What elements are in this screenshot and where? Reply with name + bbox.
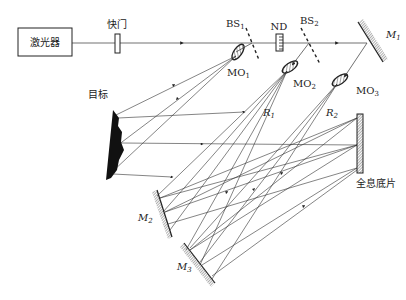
- m3-reflected-rays: [190, 118, 357, 276]
- svg-text:BS1: BS1: [226, 18, 245, 31]
- hologram-label: 全息底片: [356, 177, 396, 189]
- target-label: 目标: [88, 89, 108, 100]
- svg-text:MO2: MO2: [293, 78, 316, 91]
- mirror-m2: M2: [137, 190, 172, 239]
- svg-text:BS2: BS2: [300, 15, 319, 28]
- svg-text:R1: R1: [262, 107, 275, 120]
- mirror-m3: M3: [176, 243, 215, 287]
- svg-text:M3: M3: [176, 261, 192, 274]
- svg-text:M1: M1: [385, 29, 401, 42]
- nd-filter: ND: [271, 21, 288, 51]
- svg-text:M2: M2: [137, 212, 153, 225]
- object-illumination-rays: [112, 56, 236, 172]
- beam-splitter-2: BS2: [300, 15, 320, 64]
- mirror-m1: M1: [358, 19, 401, 62]
- beam-splitter-1: BS1: [226, 18, 259, 60]
- hologram-plate: 全息底片: [356, 114, 396, 189]
- holography-diagram: 激光器 快门 BS1 ND BS2 M1 MO1: [0, 0, 406, 300]
- objective-mo3: MO3: [330, 72, 379, 98]
- target-object: 目标: [88, 89, 124, 180]
- laser-label: 激光器: [30, 36, 60, 48]
- laser: 激光器: [18, 28, 72, 56]
- objective-mo2: MO2: [280, 59, 316, 91]
- shutter: 快门: [107, 18, 127, 53]
- reference-beam-r1: R1: [157, 71, 287, 265]
- nd-label: ND: [271, 21, 288, 32]
- svg-text:MO1: MO1: [227, 67, 250, 80]
- svg-text:MO3: MO3: [356, 85, 379, 98]
- shutter-label: 快门: [107, 18, 127, 30]
- svg-text:R2: R2: [325, 107, 339, 120]
